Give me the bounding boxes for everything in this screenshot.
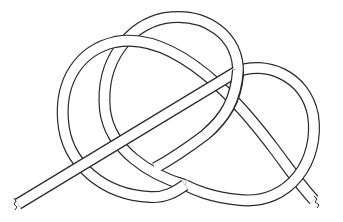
rope-segment-left-loop <box>63 41 218 198</box>
knot-drawing <box>0 0 343 222</box>
